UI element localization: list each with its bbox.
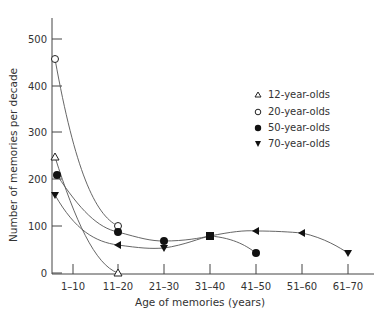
y-tick-label: 200 xyxy=(28,174,47,185)
y-axis-label: Number of memories per decade xyxy=(7,68,19,242)
legend: 12-year-olds 20-year-olds 50-year-olds 7… xyxy=(255,89,330,149)
y-tick-label: 0 xyxy=(41,268,47,279)
filled-circle-icon xyxy=(255,125,261,131)
curve-50-year-olds xyxy=(57,175,256,253)
open-triangle-icon xyxy=(255,92,261,97)
x-tick-label: 61–70 xyxy=(333,281,363,292)
legend-label: 12-year-olds xyxy=(268,89,330,100)
legend-label: 70-year-olds xyxy=(268,138,330,149)
x-tick-label: 51–60 xyxy=(287,281,317,292)
filled-triangle-icon xyxy=(255,141,261,147)
line-chart: 0 100 200 300 400 500 1–10 11–20 21–30 3… xyxy=(0,0,388,321)
y-tick-label: 100 xyxy=(28,221,47,232)
x-tick-label: 11–20 xyxy=(103,281,133,292)
legend-label: 50-year-olds xyxy=(268,122,330,133)
y-tick-label: 400 xyxy=(28,81,47,92)
x-tick-label: 1–10 xyxy=(61,281,85,292)
legend-label: 20-year-olds xyxy=(268,106,330,117)
x-tick-label: 31–40 xyxy=(195,281,225,292)
x-tick-label: 21–30 xyxy=(149,281,179,292)
curve-12-year-olds xyxy=(55,157,118,273)
curve-20-year-olds xyxy=(55,59,118,226)
y-tick-label: 300 xyxy=(28,127,47,138)
x-axis-label: Age of memories (years) xyxy=(135,296,265,308)
open-circle-icon xyxy=(255,109,261,115)
x-ticks: 1–10 11–20 21–30 31–40 41–50 51–60 61–70 xyxy=(61,264,363,292)
y-tick-label: 500 xyxy=(28,34,47,45)
x-tick-label: 41–50 xyxy=(241,281,271,292)
